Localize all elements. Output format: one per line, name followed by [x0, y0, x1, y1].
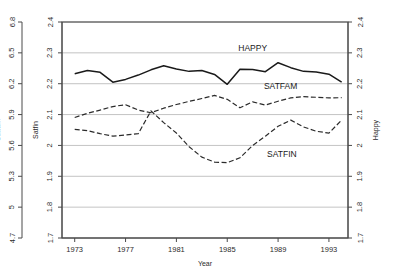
plot-border: [62, 22, 348, 238]
axis-tick-label: 5.9: [8, 109, 17, 119]
axis-tick-label: 2: [356, 143, 365, 147]
axis-tick-label: 5: [8, 205, 17, 209]
axis-title: Happy: [372, 119, 380, 140]
axis-tick-label: 1.9: [46, 171, 55, 181]
axis-tick-label: 6.8: [8, 17, 17, 27]
series-label-satfin: SATFIN: [267, 149, 297, 159]
x-axis-tick-label: 1973: [66, 245, 83, 254]
axis-tick-label: 1.8: [356, 202, 365, 212]
axis-tick-label: 2.3: [46, 48, 55, 58]
axis-tick-label: 1.7: [46, 233, 55, 243]
axis-tick-label: 2.2: [356, 78, 365, 88]
axis-tick-label: 2.1: [356, 109, 365, 119]
axis-satfin: 1.71.81.922.12.22.32.4Satfin: [32, 17, 63, 243]
x-axis-tick-label: 1981: [168, 245, 185, 254]
x-axis-title: Year: [198, 260, 213, 267]
axis-tick-label: 5.6: [8, 140, 17, 150]
axis-title: Satfam: [0, 119, 1, 141]
axis-tick-label: 1.9: [356, 171, 365, 181]
series-line-happy: [75, 63, 342, 85]
axis-tick-label: 2.3: [356, 48, 365, 58]
axis-tick-label: 4.7: [8, 233, 17, 243]
plot-frame: [62, 22, 348, 238]
axis-satfam: 4.755.35.65.96.26.56.8Satfam: [0, 17, 22, 243]
series-label-happy: HAPPY: [238, 43, 267, 53]
axis-tick-label: 2.4: [46, 17, 55, 27]
axis-tick-label: 1.8: [46, 202, 55, 212]
x-axis-tick-label: 1985: [219, 245, 236, 254]
line-chart: 4.755.35.65.96.26.56.8Satfam 1.71.81.922…: [0, 0, 396, 272]
series-annotations: HAPPYSATFAMSATFIN: [238, 43, 297, 159]
axis-tick-label: 2: [46, 143, 55, 147]
axis-tick-label: 6.5: [8, 48, 17, 58]
x-axis-tick-label: 1989: [270, 245, 287, 254]
axis-tick-label: 2.4: [356, 17, 365, 27]
axis-tick-label: 5.3: [8, 171, 17, 181]
axis-tick-label: 1.7: [356, 233, 365, 243]
series-line-satfin: [75, 111, 342, 163]
axis-happy: 1.71.81.922.12.22.32.4Happy: [348, 17, 380, 243]
x-axis-tick-label: 1993: [321, 245, 338, 254]
axis-tick-label: 2.1: [46, 109, 55, 119]
axis-tick-label: 2.2: [46, 78, 55, 88]
data-series: [75, 63, 342, 163]
axis-title: Satfin: [32, 121, 39, 139]
chart-container: 4.755.35.65.96.26.56.8Satfam 1.71.81.922…: [0, 0, 396, 272]
axis-x: 197319771981198519891993Year: [62, 238, 348, 267]
series-label-satfam: SATFAM: [264, 81, 297, 91]
x-axis-tick-label: 1977: [117, 245, 134, 254]
series-line-satfam: [75, 95, 342, 117]
grid-lines: [62, 22, 348, 207]
axis-tick-label: 6.2: [8, 78, 17, 88]
